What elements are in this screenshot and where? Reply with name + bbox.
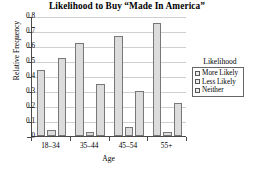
y-tick-label: 0.3 [15, 88, 35, 95]
bar [47, 130, 56, 136]
legend-item[interactable]: Less Likely [195, 78, 241, 87]
x-tick-mark [147, 137, 148, 141]
y-tick-label: 0.6 [15, 43, 35, 50]
bar [174, 103, 183, 136]
gridline [32, 107, 186, 108]
x-tick-label: 45–54 [108, 142, 148, 150]
y-tick-mark [27, 92, 31, 93]
y-tick-label: 0.1 [15, 118, 35, 125]
y-tick-label: 0.7 [15, 28, 35, 35]
legend-item-label: More Likely [202, 69, 238, 77]
legend-item[interactable]: More Likely [195, 69, 241, 78]
legend-item-label: Neither [202, 86, 224, 94]
x-axis-title: Age [31, 154, 186, 163]
gridline [32, 122, 186, 123]
x-tick-mark [109, 137, 110, 141]
legend-item[interactable]: Neither [195, 86, 241, 95]
bar [135, 91, 144, 136]
y-tick-mark [27, 62, 31, 63]
y-tick-mark [27, 122, 31, 123]
y-tick-label: 0.5 [15, 58, 35, 65]
chart-title: Likelihood to Buy “Made In America” [0, 1, 254, 11]
x-tick-label: 55+ [147, 142, 187, 150]
bar [163, 132, 172, 137]
y-tick-mark [27, 107, 31, 108]
bar [153, 23, 162, 136]
bar [96, 84, 105, 136]
x-tick-mark [31, 137, 32, 141]
legend-title: Likelihood [192, 57, 248, 66]
legend: Likelihood More Likely Less Likely Neith… [192, 57, 248, 97]
gridline [32, 47, 186, 48]
legend-swatch-icon [195, 71, 200, 76]
x-tick-label: 18–34 [30, 142, 70, 150]
y-tick-mark [27, 17, 31, 18]
y-tick-mark [27, 47, 31, 48]
bar [114, 36, 123, 137]
y-tick-label: 0 [15, 133, 35, 140]
y-tick-label: 0.2 [15, 103, 35, 110]
y-tick-mark [27, 77, 31, 78]
legend-item-label: Less Likely [202, 78, 236, 86]
gridline [32, 32, 186, 33]
bar-chart: Likelihood to Buy “Made In America” Rela… [0, 0, 254, 170]
legend-swatch-icon [195, 79, 200, 84]
bar [37, 70, 46, 136]
bar [86, 132, 95, 137]
gridline [32, 62, 186, 63]
gridline [32, 92, 186, 93]
x-tick-mark [186, 137, 187, 141]
bar [75, 43, 84, 136]
x-tick-mark [70, 137, 71, 141]
x-tick-label: 35–44 [69, 142, 109, 150]
legend-box: More Likely Less Likely Neither [192, 67, 244, 97]
gridline [32, 17, 186, 18]
y-tick-label: 0.4 [15, 73, 35, 80]
plot-area [31, 17, 186, 137]
legend-swatch-icon [195, 88, 200, 93]
gridline [32, 77, 186, 78]
bar [58, 58, 67, 136]
bar [125, 127, 134, 136]
y-tick-mark [27, 32, 31, 33]
y-tick-label: 0.8 [15, 13, 35, 20]
